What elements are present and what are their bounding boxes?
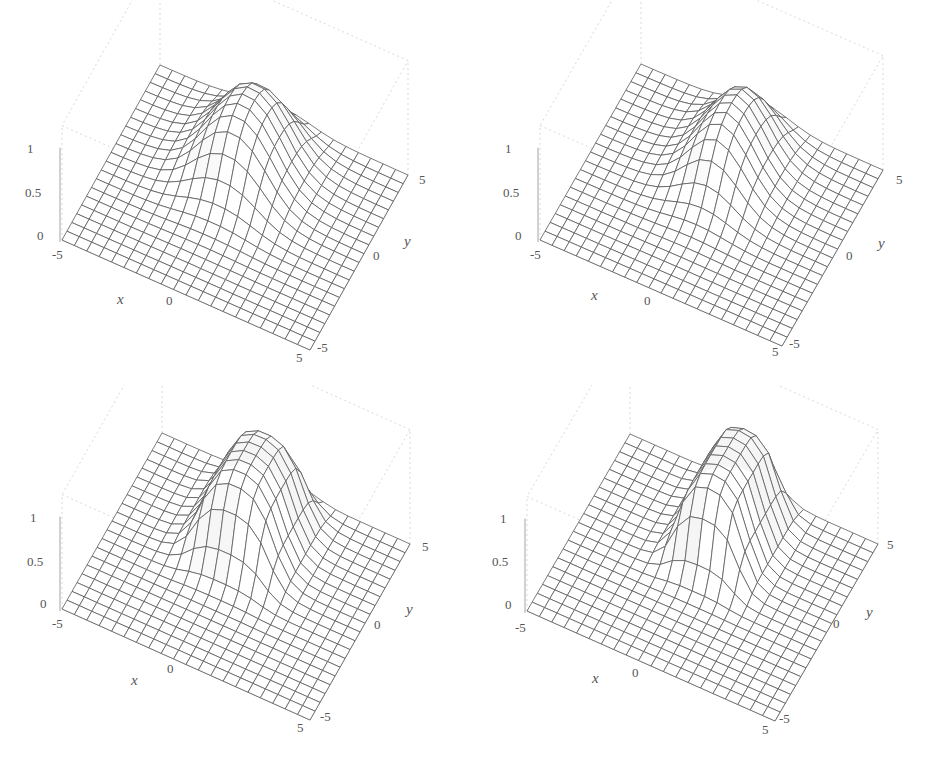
- z-tick-0: 0: [515, 229, 522, 242]
- z-tick-1: 1: [505, 142, 512, 155]
- x-tick-minus5: -5: [52, 248, 63, 261]
- y-axis-label: y: [878, 236, 885, 251]
- y-axis-label: y: [406, 602, 413, 617]
- x-axis-label: x: [591, 288, 598, 303]
- y-tick-5: 5: [422, 540, 429, 553]
- surface-plot-a: 1 0.5 0 -5 0 5 x -5 0 5 y: [0, 0, 460, 380]
- y-tick-0: 0: [374, 618, 381, 631]
- y-tick-minus5: -5: [789, 337, 800, 350]
- surface-plot-c-canvas: [0, 385, 460, 763]
- x-tick-minus5: -5: [530, 248, 541, 261]
- x-tick-0: 0: [166, 294, 173, 307]
- x-tick-5: 5: [772, 345, 779, 358]
- x-axis-label: x: [131, 673, 138, 688]
- z-tick-0: 0: [40, 597, 47, 610]
- surface-plot-d-canvas: [475, 385, 927, 763]
- y-tick-minus5: -5: [320, 710, 331, 723]
- x-axis-label: x: [117, 292, 124, 307]
- z-tick-0.5: 0.5: [492, 555, 508, 568]
- surface-plot-b-canvas: [478, 0, 927, 380]
- x-tick-minus5: -5: [515, 621, 526, 634]
- z-tick-0.5: 0.5: [25, 186, 41, 199]
- y-tick-5: 5: [419, 173, 426, 186]
- y-tick-0: 0: [846, 249, 853, 262]
- y-axis-label: y: [866, 605, 873, 620]
- surface-wireframe: [538, 0, 883, 346]
- surface-wireframe: [525, 385, 878, 721]
- z-tick-1: 1: [500, 512, 507, 525]
- x-tick-0: 0: [644, 294, 651, 307]
- y-tick-0: 0: [833, 617, 840, 630]
- y-tick-0: 0: [373, 249, 380, 262]
- z-tick-1: 1: [30, 511, 37, 524]
- x-tick-0: 0: [167, 662, 174, 675]
- y-axis-label: y: [404, 234, 411, 249]
- y-tick-minus5: -5: [779, 712, 790, 725]
- x-axis-label: x: [592, 671, 599, 686]
- x-tick-5: 5: [297, 721, 304, 734]
- y-tick-minus5: -5: [317, 341, 328, 354]
- surface-plot-c: 1 0.5 0 -5 0 5 x -5 0 5 y: [0, 385, 460, 763]
- z-tick-1: 1: [27, 142, 34, 155]
- surface-wireframe: [60, 0, 408, 350]
- x-tick-0: 0: [632, 666, 639, 679]
- z-tick-0: 0: [37, 229, 44, 242]
- z-tick-0.5: 0.5: [503, 186, 519, 199]
- surface-wireframe: [60, 385, 410, 720]
- y-tick-5: 5: [896, 173, 903, 186]
- z-tick-0: 0: [505, 598, 512, 611]
- surface-plot-d: 1 0.5 0 -5 0 5 x -5 0 5 y: [475, 385, 927, 763]
- surface-plot-b: 1 0.5 0 -5 0 5 x -5 0 5 y: [478, 0, 927, 380]
- surface-plot-a-canvas: [0, 0, 460, 380]
- z-tick-0.5: 0.5: [27, 555, 43, 568]
- x-tick-minus5: -5: [52, 617, 63, 630]
- y-tick-5: 5: [887, 538, 894, 551]
- x-tick-5: 5: [296, 351, 303, 364]
- x-tick-5: 5: [762, 723, 769, 736]
